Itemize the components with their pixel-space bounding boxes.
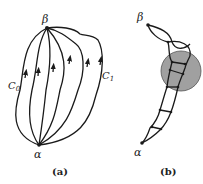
label-beta-b: β bbox=[136, 11, 143, 24]
point-alpha bbox=[37, 143, 41, 147]
arrow-icon bbox=[38, 70, 39, 76]
rung bbox=[152, 127, 161, 129]
arrow-icon bbox=[53, 66, 54, 72]
arrow-icon bbox=[25, 72, 26, 78]
curve-3 bbox=[39, 28, 50, 145]
arrow-icon bbox=[100, 59, 101, 65]
label-c1: C1 bbox=[102, 70, 114, 83]
label-beta: β bbox=[41, 13, 48, 26]
label-alpha: α bbox=[34, 148, 42, 161]
caption-a: (a) bbox=[52, 166, 68, 177]
arrow-icon bbox=[69, 58, 70, 64]
homotopy-figure: β α C0 C1 (a) bbox=[0, 0, 203, 184]
label-c0: C0 bbox=[8, 80, 21, 93]
arrow-icon bbox=[87, 61, 88, 67]
caption-b: (b) bbox=[160, 166, 176, 177]
curve-c1 bbox=[39, 27, 102, 145]
label-alpha-b: α bbox=[134, 146, 142, 159]
rung bbox=[160, 110, 171, 112]
curve-2 bbox=[30, 28, 47, 145]
panel-b: β α (b) bbox=[134, 11, 201, 177]
panel-a: β α C0 C1 (a) bbox=[8, 13, 114, 177]
point-beta bbox=[45, 26, 49, 30]
